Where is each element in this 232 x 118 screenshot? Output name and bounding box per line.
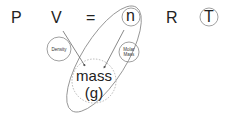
mass-line2: (g) <box>72 84 116 101</box>
variable-r: R <box>166 10 178 26</box>
variable-v: V <box>51 10 62 26</box>
ideal-gas-diagram: P V = n R T Density Molar Mass mass (g) <box>0 0 232 118</box>
variable-n: n <box>126 8 135 24</box>
variable-p: P <box>11 10 22 26</box>
diagram-shapes <box>0 0 232 118</box>
variable-t: T <box>204 9 214 25</box>
density-label: Density <box>47 47 71 52</box>
molar-mass-label: Molar Mass <box>119 47 139 57</box>
equals-sign: = <box>86 10 95 26</box>
molar-mass-line2: Mass <box>119 52 139 57</box>
mass-label: mass (g) <box>72 67 116 101</box>
mass-line1: mass <box>72 67 116 84</box>
